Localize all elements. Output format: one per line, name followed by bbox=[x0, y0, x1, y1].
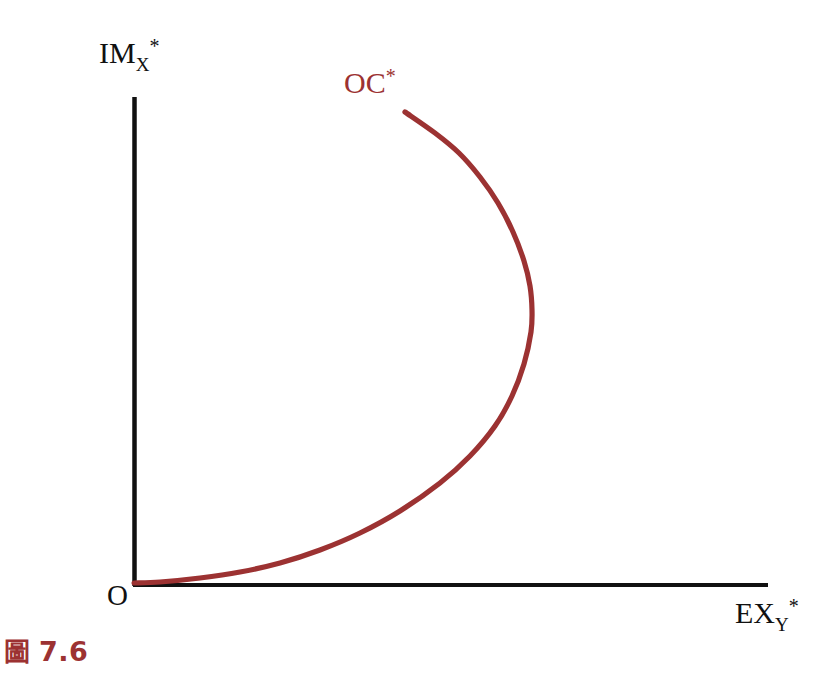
figure-cjk-glyph-icon: 圖 bbox=[4, 639, 30, 665]
offer-curve-label-base: OC bbox=[344, 66, 386, 99]
y-axis-label: IMX* bbox=[99, 36, 159, 74]
y-axis-label-subscript: X bbox=[136, 54, 150, 75]
x-axis-label-subscript: Y bbox=[775, 614, 789, 635]
plot-area bbox=[0, 0, 835, 676]
origin-label: O bbox=[107, 581, 128, 610]
offer-curve-label-superscript: * bbox=[386, 65, 396, 87]
y-axis-label-superscript: * bbox=[149, 35, 159, 57]
figure-number: 7.6 bbox=[39, 638, 88, 665]
x-axis-label-base: EX bbox=[735, 596, 775, 629]
x-axis-label-superscript: * bbox=[789, 595, 799, 617]
figure-caption: 圖 7.6 bbox=[4, 638, 88, 665]
offer-curve-figure: IMX* EXY* O OC* 圖 7.6 bbox=[0, 0, 835, 676]
x-axis-label: EXY* bbox=[735, 596, 799, 634]
offer-curve-label: OC* bbox=[344, 66, 396, 98]
offer-curve-path bbox=[134, 112, 532, 583]
y-axis-label-base: IM bbox=[99, 36, 136, 69]
